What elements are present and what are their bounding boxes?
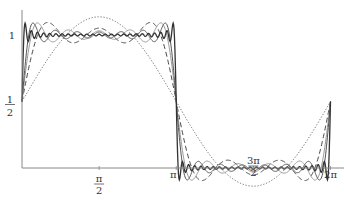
x-tick-label: 2π <box>324 169 337 180</box>
x-tick-label-num: π <box>96 173 103 184</box>
y-tick-label-den: 2 <box>7 107 13 118</box>
fourier-chart: π2π3π22π112 <box>0 0 344 215</box>
x-tick-label-den: 2 <box>96 185 102 196</box>
axes <box>22 10 344 170</box>
series-curves <box>22 17 331 186</box>
y-tick-label: 1 <box>9 30 15 41</box>
x-tick-label-den: 2 <box>250 167 256 178</box>
series-s25 <box>22 23 331 180</box>
x-tick-label: π <box>170 169 177 180</box>
tick-labels: π2π3π22π112 <box>5 30 337 196</box>
x-tick-label-num: 3π <box>247 155 260 166</box>
y-tick-label-num: 1 <box>7 94 13 105</box>
